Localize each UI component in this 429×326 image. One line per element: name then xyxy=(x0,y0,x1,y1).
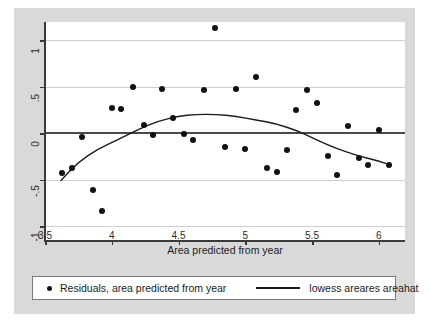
scatter-point xyxy=(365,162,371,168)
scatter-point xyxy=(150,132,156,138)
figure-background: 1.50-.5-1 3.544.555.56 Area predicted fr… xyxy=(14,8,415,314)
legend-item-residuals: Residuals, area predicted from year xyxy=(47,282,226,294)
scatter-point xyxy=(190,137,196,143)
scatter-point xyxy=(376,127,382,133)
x-axis-tick-label: 4.5 xyxy=(172,230,186,241)
x-axis-title: Area predicted from year xyxy=(45,244,405,256)
scatter-point xyxy=(90,187,96,193)
legend-item-lowess: lowess areares areahat xyxy=(256,282,418,294)
scatter-point xyxy=(109,105,115,111)
scatter-point xyxy=(130,84,136,90)
x-axis-tick-label: 4 xyxy=(109,230,115,241)
scatter-point xyxy=(181,131,187,137)
legend-label-lowess: lowess areares areahat xyxy=(309,282,418,294)
x-axis-tick-label: 3.5 xyxy=(38,230,52,241)
x-axis-tick-label: 5 xyxy=(242,230,248,241)
scatter-point xyxy=(264,165,270,171)
legend-marker-line-icon xyxy=(256,287,300,289)
scatter-point xyxy=(212,25,218,31)
y-axis-tick-label: 1 xyxy=(31,40,41,62)
lowess-curve xyxy=(45,22,405,240)
legend-label-residuals: Residuals, area predicted from year xyxy=(60,282,226,294)
scatter-point xyxy=(284,147,290,153)
y-axis-tick-label: .5 xyxy=(31,87,41,109)
legend-marker-dot-icon xyxy=(47,286,52,291)
y-axis-tick-label: 0 xyxy=(31,133,41,155)
x-axis-tick-label: 5.5 xyxy=(305,230,319,241)
legend: Residuals, area predicted from year lowe… xyxy=(32,276,396,300)
x-axis-line xyxy=(44,240,405,242)
scatter-point xyxy=(293,107,299,113)
plot-area xyxy=(45,22,405,240)
scatter-point xyxy=(118,106,124,112)
x-axis-tick-label: 6 xyxy=(376,230,382,241)
scatter-point xyxy=(141,122,147,128)
scatter-point xyxy=(304,87,310,93)
y-axis-tick-label: -.5 xyxy=(31,180,41,202)
scatter-point xyxy=(356,155,362,161)
